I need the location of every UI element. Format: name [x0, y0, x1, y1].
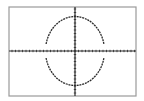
ellipse-plot	[0, 0, 144, 101]
calculator-graph-screen	[0, 0, 144, 101]
